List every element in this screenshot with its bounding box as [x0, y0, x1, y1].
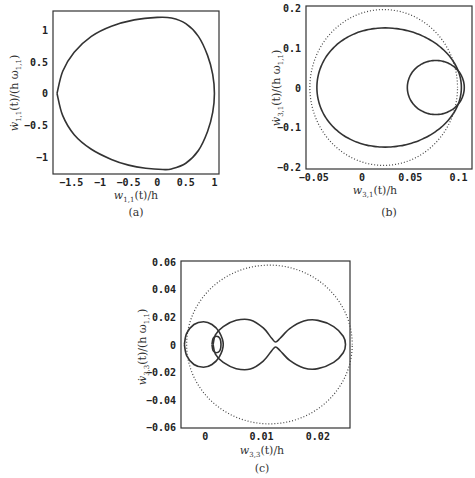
y-tick-label: 0.04	[152, 284, 176, 295]
y-tick-label: −1	[36, 152, 48, 163]
y-tick-label: 0.06	[152, 257, 176, 268]
curves-b	[310, 10, 464, 166]
caption-a: (a)	[128, 206, 143, 219]
x-tick-label: 0	[202, 431, 208, 442]
caption-c: (c)	[255, 462, 270, 475]
x-axis-label-a: w1,1(t)/h	[114, 189, 158, 204]
curve-reference-circle	[310, 10, 458, 166]
curves-c	[184, 265, 352, 424]
x-tick-label: −1.5	[59, 177, 83, 188]
ticks-c: 00.010.02−0.06−0.04−0.0200.020.040.06	[146, 257, 330, 442]
y-axis-label-a: ẇ1,1(t)/(h ω1,1)	[8, 55, 23, 132]
x-tick-label: 0.1	[449, 172, 467, 183]
x-tick-label: 1	[211, 177, 217, 188]
x-axis-label-c: w3,3(t)/h	[240, 444, 284, 459]
caption-b: (b)	[381, 206, 397, 219]
y-tick-label: −0.04	[146, 395, 176, 406]
curve-double-lobe	[213, 319, 345, 370]
x-tick-label: 0	[154, 177, 160, 188]
curves-a	[57, 17, 214, 170]
panel-b: −0.0500.050.1−0.2−0.100.10.2 w3,1(t)/h (…	[270, 3, 472, 219]
plot-frame-b	[306, 6, 472, 169]
x-tick-label: −0.05	[299, 172, 329, 183]
y-tick-label: 1	[42, 25, 48, 36]
y-tick-label: −0.5	[24, 120, 48, 131]
x-tick-label: 0.05	[398, 172, 422, 183]
figure: −1.5−1−0.500.51−1−0.500.51 w1,1(t)/h (a)…	[0, 0, 475, 478]
x-tick-label: 0.01	[250, 431, 274, 442]
x-tick-label: 0.02	[306, 431, 330, 442]
y-tick-label: −0.06	[146, 422, 176, 433]
y-axis-label-b: ẇ3,1(t)/(h ω1,1)	[270, 50, 285, 127]
y-tick-label: 0	[170, 340, 176, 351]
y-tick-label: 0.1	[283, 43, 301, 54]
x-tick-label: 0.5	[177, 177, 195, 188]
curve-phase-trajectory	[57, 17, 214, 170]
curve-left-loop	[184, 322, 223, 368]
x-tick-label: 0	[359, 172, 365, 183]
curve-outer-loop	[317, 28, 461, 147]
x-tick-label: −0.5	[117, 177, 141, 188]
x-axis-label-b: w3,1(t)/h	[353, 184, 397, 199]
x-tick-label: −1	[94, 177, 106, 188]
plot-frame-a	[53, 11, 219, 174]
panel-a: −1.5−1−0.500.51−1−0.500.51 w1,1(t)/h (a)…	[8, 11, 219, 219]
y-tick-label: 0.2	[283, 3, 301, 14]
y-tick-label: 0.02	[152, 312, 176, 323]
y-tick-label: 0.5	[30, 57, 48, 68]
curve-reference-circle	[187, 265, 353, 424]
y-tick-label: 0	[295, 83, 301, 94]
y-tick-label: −0.2	[277, 162, 301, 173]
panel-c: 00.010.02−0.06−0.04−0.0200.020.040.06 w3…	[136, 257, 352, 475]
y-tick-label: 0	[42, 88, 48, 99]
y-axis-label-c: ẇ3,3(t)/(h ω1,1)	[136, 309, 151, 386]
